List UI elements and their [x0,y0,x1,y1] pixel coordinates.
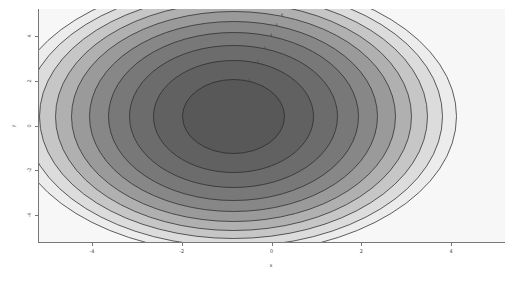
y-tick-label: -2 [27,165,32,175]
x-tick [92,243,93,246]
x-axis-label: x [270,263,273,268]
y-tick [35,126,38,127]
y-tick-label: 0 [27,121,32,131]
y-axis-spine [38,9,39,242]
x-tick-label: -4 [89,249,94,254]
y-tick [35,215,38,216]
contour-svg: 123456 [38,9,505,242]
contour-label-level-3: 3 [264,46,266,50]
contour-label-level-6: 6 [281,13,283,17]
y-tick-label: 2 [27,76,32,86]
y-tick-label: 4 [27,31,32,41]
x-tick [361,243,362,246]
x-tick [272,243,273,246]
y-tick-label: -4 [27,210,32,220]
contour-label-level-2: 2 [256,60,258,64]
x-tick-label: 2 [360,249,363,254]
x-tick [182,243,183,246]
fill-band-group [38,9,505,242]
y-tick [35,170,38,171]
y-tick [35,81,38,82]
plot-area[interactable]: 123456 [38,9,505,242]
contour-plot-figure: 123456 -4-2024 420-2-4 x y [0,0,523,282]
y-tick [35,36,38,37]
y-axis-label: y [11,125,16,128]
x-tick-label: 4 [450,249,453,254]
x-tick-label: 0 [270,249,273,254]
contour-label-level-4: 4 [270,33,272,37]
contour-label-level-1: 1 [248,78,250,82]
contour-label-level-5: 5 [276,23,278,27]
fill-band-core [183,80,285,154]
x-tick [451,243,452,246]
x-tick-label: -2 [179,249,184,254]
